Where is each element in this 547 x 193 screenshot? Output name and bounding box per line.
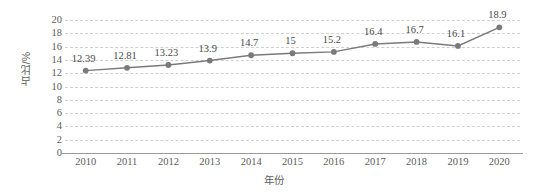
data-point-marker [248,52,254,58]
data-point-marker [124,65,130,71]
line-chart: 占比/% 20181614121086420 20102011201220132… [0,0,547,193]
data-point-label: 16.7 [405,24,423,35]
data-point-label: 18.9 [488,10,506,21]
x-axis-title: 年份 [0,172,547,187]
data-point-label: 12.39 [72,53,96,64]
data-point-label: 13.9 [199,43,217,54]
data-point-label: 15 [285,36,296,47]
data-point-label: 16.1 [447,28,465,39]
data-point-marker [83,68,89,74]
data-point-label: 15.2 [323,34,341,45]
data-point-marker [496,24,502,30]
data-point-label: 14.7 [240,38,258,49]
data-point-label: 16.4 [364,26,382,37]
data-point-marker [331,49,337,55]
data-point-marker [414,39,420,45]
data-point-label: 13.23 [155,48,179,59]
data-point-marker [290,50,296,56]
data-point-label: 12.81 [113,50,137,61]
data-point-marker [207,58,213,64]
data-point-marker [166,62,172,68]
data-point-marker [372,41,378,47]
data-point-marker [455,43,461,49]
